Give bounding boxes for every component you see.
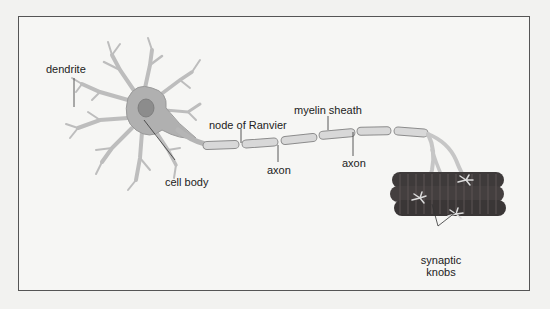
- label-node-of-ranvier: node of Ranvier: [209, 119, 287, 131]
- label-synaptic-knobs-line1: synaptic: [418, 254, 464, 266]
- label-dendrite: dendrite: [46, 63, 86, 75]
- neuron-illustration: [0, 0, 550, 309]
- label-synaptic-knobs-line2: knobs: [418, 266, 464, 278]
- muscle-fibers: [390, 172, 506, 216]
- label-cell-body: cell body: [165, 176, 208, 188]
- label-myelin-sheath: myelin sheath: [294, 104, 362, 116]
- label-axon-2: axon: [342, 157, 366, 169]
- label-synaptic-knobs: synaptic knobs: [418, 254, 464, 278]
- label-axon-1: axon: [267, 164, 291, 176]
- nucleus: [138, 99, 154, 117]
